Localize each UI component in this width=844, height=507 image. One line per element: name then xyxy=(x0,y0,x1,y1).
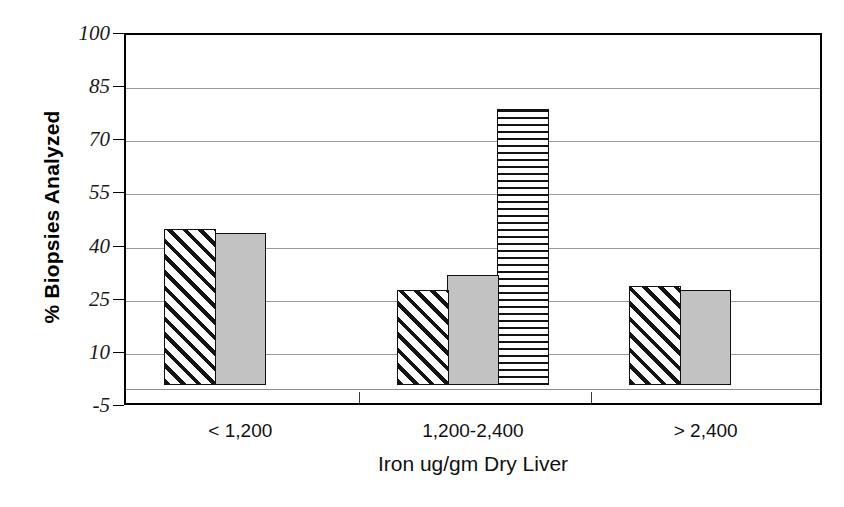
x-axis-title: Iron ug/gm Dry Liver xyxy=(124,452,822,476)
y-axis-tick-mark xyxy=(113,299,124,300)
category-separator xyxy=(591,392,592,403)
gridline xyxy=(126,88,820,89)
y-axis-tick-mark xyxy=(113,352,124,353)
bar xyxy=(679,290,731,386)
x-axis-tick-label: < 1,200 xyxy=(124,418,357,444)
bar xyxy=(447,275,499,385)
y-axis-tick-label: 55 xyxy=(48,180,110,204)
bar xyxy=(164,229,216,385)
y-axis-tick-label: -5 xyxy=(48,393,110,417)
y-axis-tick-mark xyxy=(113,86,124,87)
y-axis-tick-label: 40 xyxy=(48,234,110,258)
bar xyxy=(497,109,549,385)
plot-area xyxy=(124,33,822,405)
y-axis-tick-mark xyxy=(113,192,124,193)
y-axis-tick-label: 70 xyxy=(48,127,110,151)
y-axis-tick-mark xyxy=(113,139,124,140)
x-axis-tick-label: 1,200-2,400 xyxy=(357,418,590,444)
y-axis-tick-label: 25 xyxy=(48,287,110,311)
x-axis-tick-label: > 2,400 xyxy=(589,418,822,444)
category-separator xyxy=(359,392,360,403)
y-axis-tick-mark xyxy=(113,405,124,406)
y-axis-tick-mark xyxy=(113,33,124,34)
bar-chart: % Biopsies Analyzed 100857055402510-5 < … xyxy=(0,0,844,507)
zero-baseline xyxy=(126,389,820,390)
bar xyxy=(214,233,266,385)
y-axis-tick-label: 85 xyxy=(48,74,110,98)
bar xyxy=(629,286,681,385)
bar xyxy=(397,290,449,386)
y-axis-tick-labels: 100857055402510-5 xyxy=(40,0,110,507)
gridline xyxy=(126,141,820,142)
y-axis-tick-label: 10 xyxy=(48,340,110,364)
y-axis-tick-label: 100 xyxy=(48,21,110,45)
gridline xyxy=(126,194,820,195)
y-axis-tick-mark xyxy=(113,246,124,247)
